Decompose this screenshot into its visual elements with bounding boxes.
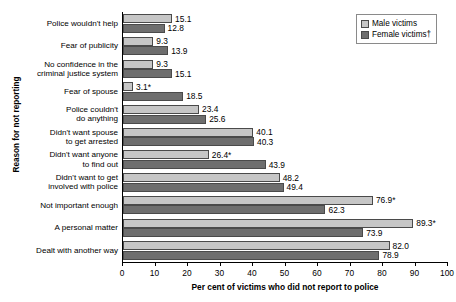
category-label: No confidence in thecriminal justice sys… (6, 60, 118, 79)
bar-value-label: 40.1 (256, 128, 272, 137)
bar-male (123, 14, 172, 23)
x-axis-tick (155, 262, 156, 266)
plot-area: 15.19.39.33.1*23.440.126.4*48.276.9*89.3… (122, 12, 447, 262)
category-label: Police couldn'tdo anything (6, 105, 118, 124)
x-axis-tick-label: 30 (205, 268, 235, 278)
bar-value-label: 18.5 (186, 92, 202, 101)
category-label: Didn't want to getinvolved with police (6, 173, 118, 192)
category-label: Fear of publicity (6, 41, 118, 50)
x-axis-tick (122, 262, 123, 266)
bar-value-label: 12.8 (168, 24, 184, 33)
x-axis-tick (382, 262, 383, 266)
bar-value-label: 9.3 (156, 60, 168, 69)
bar-male (123, 37, 153, 46)
bar-male (123, 219, 413, 228)
x-axis-tick-label: 20 (172, 268, 202, 278)
bar-value-label: 49.4 (287, 183, 303, 192)
category-label: Not important enough (6, 201, 118, 210)
bar-female (123, 228, 363, 237)
x-axis-tick-label: 40 (237, 268, 267, 278)
legend-swatch-icon (361, 20, 369, 28)
bar-female (123, 69, 172, 78)
bar-female (123, 115, 206, 124)
category-label: Didn't want anyoneto find out (6, 150, 118, 169)
bar-male (123, 128, 253, 137)
chart-legend: Male victimsFemale victims† (356, 14, 437, 44)
x-axis-tick (350, 262, 351, 266)
x-axis-tick (252, 262, 253, 266)
legend-item-male[interactable]: Male victims (361, 18, 431, 29)
bar-male (123, 241, 390, 250)
x-axis-tick (285, 262, 286, 266)
bar-female (123, 24, 165, 33)
bar-value-label: 26.4* (212, 151, 232, 160)
bar-female (123, 46, 168, 55)
bar-male (123, 105, 199, 114)
bar-value-label: 78.9 (382, 251, 398, 260)
category-label: Police wouldn't help (6, 19, 118, 28)
bar-female (123, 251, 379, 260)
legend-item-female[interactable]: Female victims† (361, 29, 431, 40)
bar-value-label: 89.3* (416, 219, 436, 228)
x-axis-title: Per cent of victims who did not report t… (122, 282, 448, 292)
x-axis-tick (317, 262, 318, 266)
x-axis-tick-label: 80 (367, 268, 397, 278)
x-axis-tick (415, 262, 416, 266)
x-axis-tick (220, 262, 221, 266)
legend-swatch-icon (361, 31, 369, 39)
bar-female (123, 137, 254, 146)
bar-female (123, 183, 284, 192)
bar-value-label: 40.3 (257, 138, 273, 147)
bar-value-label: 15.1 (175, 70, 191, 79)
bar-chart: Reason for not reporting Police wouldn't… (0, 0, 456, 302)
category-label: Fear of spouse (6, 87, 118, 96)
bar-male (123, 150, 209, 159)
bar-value-label: 76.9* (376, 196, 396, 205)
bar-value-label: 73.9 (366, 229, 382, 238)
bar-value-label: 43.9 (269, 161, 285, 170)
category-label: Didn't want spouseto get arrested (6, 128, 118, 147)
bar-male (123, 173, 280, 182)
legend-label: Female victims† (372, 30, 431, 40)
bar-male (123, 82, 133, 91)
x-axis-tick-label: 50 (270, 268, 300, 278)
x-axis-tick-label: 70 (335, 268, 365, 278)
x-axis-tick-label: 100 (432, 268, 456, 278)
category-label-group: Police wouldn't helpFear of publicityNo … (8, 12, 118, 262)
x-axis-tick-label: 60 (302, 268, 332, 278)
category-label: Dealt with another way (6, 246, 118, 255)
bar-value-label: 62.3 (328, 206, 344, 215)
x-axis-tick-label: 0 (107, 268, 137, 278)
bar-female (123, 205, 325, 214)
x-axis-tick-label: 90 (400, 268, 430, 278)
bar-value-label: 25.6 (209, 115, 225, 124)
bar-male (123, 60, 153, 69)
category-label: A personal matter (6, 223, 118, 232)
bar-value-label: 13.9 (171, 47, 187, 56)
x-axis-tick (447, 262, 448, 266)
bar-female (123, 92, 183, 101)
x-axis-tick-label: 10 (140, 268, 170, 278)
legend-label: Male victims (372, 19, 417, 29)
x-axis-tick (187, 262, 188, 266)
bar-female (123, 160, 266, 169)
bar-value-label: 3.1* (136, 83, 151, 92)
bar-male (123, 196, 373, 205)
bar-value-label: 9.3 (156, 37, 168, 46)
